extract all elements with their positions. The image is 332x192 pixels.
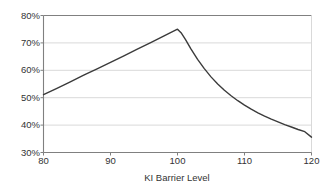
y-axis-tick-label: 80%: [6, 11, 40, 21]
y-axis-tick: 60%: [4, 65, 40, 75]
x-axis-tick-label: 90: [91, 155, 131, 167]
series-line-0: [44, 29, 312, 137]
x-axis-tick: 110: [225, 155, 265, 167]
y-axis-tick: 40%: [4, 120, 40, 130]
y-axis-tick-label: 60%: [6, 65, 40, 75]
x-axis-tick: 90: [91, 155, 131, 167]
x-axis-tick: 80: [24, 155, 64, 167]
y-axis-tick-label: 40%: [6, 120, 40, 130]
x-axis-tick: 120: [292, 155, 332, 167]
y-axis-tick-label: 50%: [6, 93, 40, 103]
x-axis-title: KI Barrier Level: [43, 172, 311, 183]
data-series-group: [44, 29, 312, 137]
x-axis-tick-label: 120: [292, 155, 332, 167]
y-axis-tick: 70%: [4, 38, 40, 48]
gridlines-group: [44, 43, 312, 125]
x-axis-tick-label: 80: [24, 155, 64, 167]
x-axis-tick-label: 100: [158, 155, 198, 167]
y-axis-tick: 50%: [4, 93, 40, 103]
chart-container: 80%70%60%50%40%30% 8090100110120 KI Barr…: [0, 0, 332, 192]
x-axis-tick-label: 110: [225, 155, 265, 167]
y-axis-tick: 80%: [4, 11, 40, 21]
y-axis-tick-label: 70%: [6, 38, 40, 48]
x-axis-tick: 100: [158, 155, 198, 167]
axis-ticks: [41, 16, 312, 156]
plot-frame: [44, 16, 312, 153]
